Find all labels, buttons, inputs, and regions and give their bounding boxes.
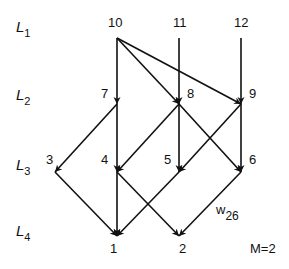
layer-label-l4: L4 (16, 223, 30, 243)
edge-10-to-8 (117, 38, 179, 104)
layer-label-l1: L1 (16, 19, 30, 39)
edge-group (55, 38, 241, 236)
layer-label-l2: L2 (16, 87, 30, 107)
weight-label-sub: 26 (225, 209, 238, 223)
node-label-12: 12 (234, 16, 248, 29)
node-label-2: 2 (179, 242, 186, 255)
node-label-5: 5 (164, 153, 171, 166)
weight-label-w26: w26 (216, 203, 239, 222)
layered-network-diagram: L1L2L3L4 101112789345612 w26 M=2 (0, 0, 289, 269)
node-label-8: 8 (187, 87, 194, 100)
node-label-11: 11 (173, 16, 187, 29)
node-label-7: 7 (101, 87, 108, 100)
node-label-9: 9 (249, 87, 256, 100)
weight-label-base: w (216, 202, 225, 217)
node-label-6: 6 (249, 153, 256, 166)
parameter-label-m: M=2 (250, 242, 276, 255)
node-label-1: 1 (110, 242, 117, 255)
layer-label-sub: 1 (24, 27, 30, 39)
edge-3-to-1 (55, 172, 117, 236)
edges-layer (0, 0, 289, 269)
layer-label-sub: 2 (24, 95, 30, 107)
layer-label-l3: L3 (16, 157, 30, 177)
layer-label-sub: 4 (24, 231, 30, 243)
layer-label-sub: 3 (24, 165, 30, 177)
node-label-3: 3 (46, 153, 53, 166)
node-label-10: 10 (108, 16, 122, 29)
node-label-4: 4 (101, 153, 108, 166)
